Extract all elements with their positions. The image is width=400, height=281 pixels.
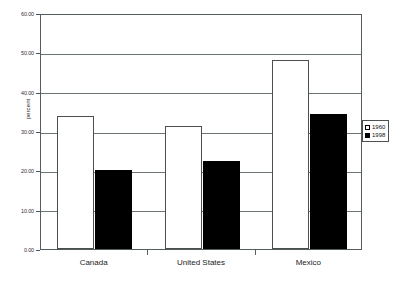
x-axis-category-label: United States (147, 258, 254, 267)
legend-swatch-filled-square-icon (365, 133, 370, 138)
legend-item-label: 1998 (372, 131, 385, 139)
y-axis-tick-label: 40.00 (8, 90, 34, 96)
bar-united-states-1998 (203, 161, 240, 249)
gridline (41, 93, 361, 94)
legend-item-1960[interactable]: 1960 (365, 123, 385, 131)
y-axis-tick-label: 50.00 (8, 50, 34, 56)
x-axis-category-label: Canada (40, 258, 147, 267)
y-axis-tick-mark (36, 250, 40, 251)
y-axis-tick-label: 10.00 (8, 208, 34, 214)
chart-legend: 1960 1998 (362, 120, 389, 142)
x-axis-group-divider (147, 250, 148, 255)
plot-area (40, 14, 362, 250)
y-axis-tick-label: 60.00 (8, 11, 34, 17)
y-axis-tick-label: 30.00 (8, 129, 34, 135)
legend-swatch-hollow-square-icon (365, 125, 370, 130)
bar-chart-figure: percent 0.0010.0020.0030.0040.0050.0060.… (0, 0, 400, 281)
bar-mexico-1960 (272, 60, 309, 249)
y-axis-tick-label: 20.00 (8, 168, 34, 174)
x-axis-category-label: Mexico (255, 258, 362, 267)
bar-mexico-1998 (310, 114, 347, 249)
gridline (41, 54, 361, 55)
y-axis-tick-label: 0.00 (8, 247, 34, 253)
legend-item-1998[interactable]: 1998 (365, 131, 385, 139)
bar-canada-1998 (95, 170, 132, 249)
x-axis-group-divider (255, 250, 256, 255)
legend-item-label: 1960 (372, 123, 385, 131)
bar-united-states-1960 (165, 126, 202, 249)
bar-canada-1960 (57, 116, 94, 249)
